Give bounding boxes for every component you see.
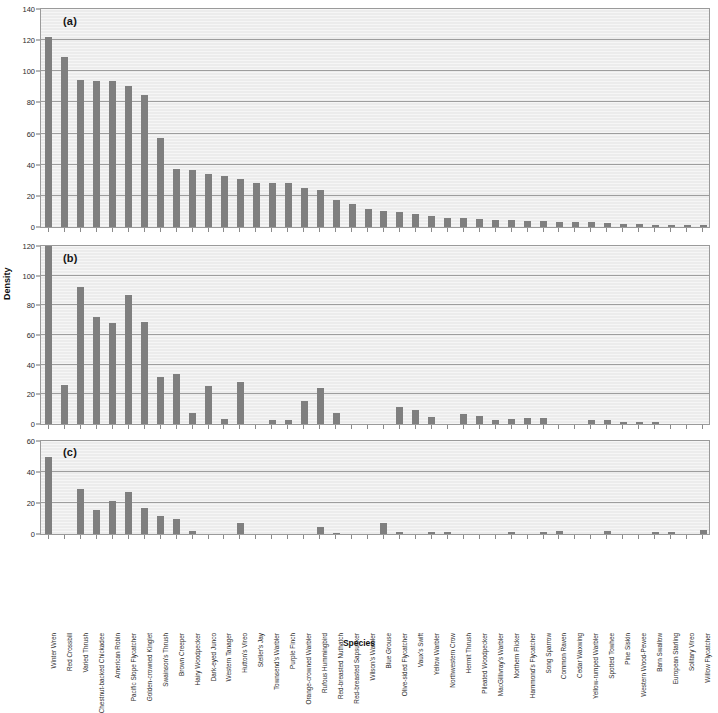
bar [684, 225, 691, 227]
y-tick-mark [36, 246, 40, 247]
bar [396, 532, 403, 534]
bar [588, 420, 595, 424]
bar [77, 80, 84, 227]
y-tick-label: 60 [27, 437, 35, 446]
x-tick-mark [527, 425, 528, 429]
bar [93, 510, 100, 534]
y-tick-mark [36, 394, 40, 395]
panel-a-tag: (a) [63, 15, 77, 27]
x-tick-mark [335, 228, 336, 232]
bar [173, 374, 180, 424]
bar [285, 420, 292, 424]
y-tick-mark [36, 335, 40, 336]
bar [508, 419, 515, 424]
bar [652, 225, 659, 227]
x-tick-mark [48, 425, 49, 429]
x-tick-mark [176, 425, 177, 429]
x-tick-mark [463, 228, 464, 232]
x-tick-mark [527, 228, 528, 232]
bar [556, 531, 563, 534]
x-tick-mark [399, 425, 400, 429]
x-tick-mark [367, 425, 368, 429]
x-tick-mark [144, 228, 145, 232]
bar [173, 519, 180, 535]
x-tick-mark [96, 228, 97, 232]
panel-c: (c) [40, 440, 710, 535]
bar [125, 295, 132, 424]
bar [349, 204, 356, 227]
x-tick-mark [654, 228, 655, 232]
panel-a: (a) [40, 8, 710, 228]
y-tick-label: 120 [22, 242, 35, 251]
bar [428, 417, 435, 424]
bar [77, 287, 84, 424]
x-tick-mark [622, 228, 623, 232]
panel-b-plot-area: (b) [40, 245, 710, 425]
bar [237, 382, 244, 424]
x-tick-mark [479, 425, 480, 429]
x-tick-mark [670, 425, 671, 429]
bar [476, 416, 483, 424]
bar [636, 224, 643, 227]
panel-c-tag: (c) [63, 446, 77, 458]
x-tick-mark [223, 228, 224, 232]
panel-a-x-ticks [40, 228, 710, 232]
x-tick-mark [192, 228, 193, 232]
bar [668, 532, 675, 534]
bar [588, 222, 595, 227]
bar [492, 420, 499, 424]
bar [700, 225, 707, 227]
bar [189, 531, 196, 534]
bar [109, 323, 116, 424]
bar [460, 414, 467, 424]
y-tick-label: 20 [27, 390, 35, 399]
y-tick-mark [36, 40, 40, 41]
x-tick-mark [208, 425, 209, 429]
bar [540, 221, 547, 227]
bar [285, 183, 292, 227]
bar [540, 418, 547, 424]
x-tick-mark [431, 425, 432, 429]
x-tick-mark [192, 425, 193, 429]
panel-c-y-axis: 0204060 [10, 440, 40, 535]
bar [444, 532, 451, 534]
bar [205, 386, 212, 424]
x-tick-mark [558, 228, 559, 232]
x-tick-mark [239, 425, 240, 429]
y-tick-mark [36, 133, 40, 134]
x-tick-mark [638, 228, 639, 232]
bar [604, 531, 611, 534]
bar [269, 183, 276, 227]
x-tick-mark [287, 228, 288, 232]
bar [604, 420, 611, 424]
bar [396, 212, 403, 227]
bar [173, 169, 180, 227]
bar [301, 401, 308, 424]
panel-b-tag: (b) [63, 252, 78, 264]
y-tick-mark [36, 305, 40, 306]
y-tick-mark [36, 275, 40, 276]
panel-a-bars [41, 9, 709, 227]
x-tick-mark [686, 228, 687, 232]
y-tick-label: 40 [27, 160, 35, 169]
x-tick-mark [606, 425, 607, 429]
bar [396, 407, 403, 424]
bar [412, 214, 419, 227]
y-tick-label: 80 [27, 98, 35, 107]
bar [604, 223, 611, 227]
bar [333, 200, 340, 227]
bar [221, 419, 228, 424]
x-tick-mark [511, 425, 512, 429]
bar [269, 420, 276, 424]
x-tick-mark [383, 228, 384, 232]
x-tick-mark [239, 228, 240, 232]
x-tick-mark [48, 228, 49, 232]
bar [189, 413, 196, 424]
x-tick-mark [351, 228, 352, 232]
bar [141, 322, 148, 424]
panel-b-y-axis: 020406080100120 [10, 245, 40, 425]
bar [77, 489, 84, 534]
x-tick-mark [367, 228, 368, 232]
x-tick-mark [64, 425, 65, 429]
